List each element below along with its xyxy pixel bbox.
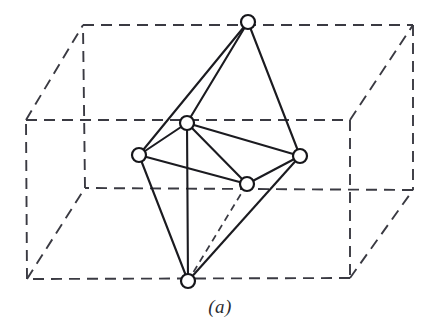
unit-cell-box	[26, 25, 413, 279]
vertex-apex_bottom	[181, 274, 195, 288]
vertex-equat_back	[180, 116, 194, 130]
polyhedron-edge-equat_back-to-apex_bottom	[187, 123, 188, 281]
polyhedron-solid-edges	[139, 22, 300, 281]
polyhedron-edge-equat_left-to-equat_front	[139, 155, 247, 184]
polyhedron-edge-equat_right-to-equat_front	[247, 156, 300, 184]
box-edge-front_bottom_left-to-front_top_left	[26, 120, 27, 279]
figure-container: (a)	[0, 0, 440, 334]
vertex-equat_left	[132, 148, 146, 162]
box-edge-front_bottom_right-to-back_bottom_right	[350, 190, 413, 278]
octahedron-in-box-diagram	[0, 0, 440, 334]
figure-caption: (a)	[0, 296, 440, 318]
polyhedron-edge-equat_right-to-apex_bottom	[188, 156, 300, 281]
polyhedron-edge-equat_left-to-apex_bottom	[139, 155, 188, 281]
vertex-apex_top	[241, 15, 255, 29]
polyhedron-edge-apex_top-to-equat_right	[248, 22, 300, 156]
box-edge-back_bottom_left-to-back_top_left	[83, 25, 85, 188]
box-edge-front_top_right-to-back_top_right	[350, 25, 413, 120]
polyhedron-hidden-edges	[188, 184, 247, 281]
polyhedron-edge-apex_top-to-equat_back	[187, 22, 248, 123]
polyhedron-hidden-edge-equat_front-to-apex_bottom	[188, 184, 247, 281]
box-edge-front_top_left-to-back_top_left	[26, 25, 83, 120]
vertex-equat_right	[293, 149, 307, 163]
vertex-equat_front	[240, 177, 254, 191]
box-edge-front_bottom_left-to-back_bottom_left	[27, 188, 85, 279]
polyhedron-edge-equat_back-to-equat_left	[139, 123, 187, 155]
